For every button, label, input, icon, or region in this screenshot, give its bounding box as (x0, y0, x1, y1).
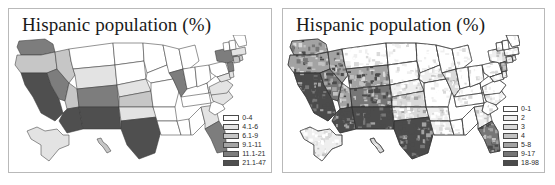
county-cell (413, 57, 416, 61)
county-cell (391, 72, 393, 75)
county-cell (333, 92, 338, 96)
county-cell (332, 87, 337, 91)
county-cell (389, 113, 392, 115)
county-cell (471, 115, 476, 119)
county-cell (364, 100, 367, 102)
county-cell (386, 92, 388, 96)
county-cell (428, 45, 431, 47)
county-cell (329, 134, 331, 138)
county-cell (301, 138, 304, 141)
county-cell (333, 127, 336, 130)
county-cell (303, 58, 308, 61)
county-cell (299, 98, 302, 100)
county-cell (492, 87, 496, 91)
county-cell (323, 104, 327, 107)
county-cell (428, 55, 431, 59)
county-cell (367, 123, 372, 127)
map-region-ar (153, 107, 177, 121)
county-cell (397, 147, 400, 150)
county-cell (317, 77, 319, 79)
county-cell (407, 71, 412, 74)
county-cell (401, 57, 406, 59)
county-cell (296, 118, 298, 121)
legend-row: 18-98 (503, 159, 539, 167)
county-cell (320, 59, 324, 61)
county-cell (439, 127, 443, 131)
legend-label: 0-4 (242, 114, 252, 122)
county-cell (486, 102, 490, 105)
county-cell (359, 50, 362, 53)
county-cell (465, 116, 469, 119)
county-cell (404, 68, 407, 69)
county-cell (297, 82, 302, 84)
county-cell (362, 95, 367, 97)
county-cell (346, 112, 348, 116)
map-region-tx (121, 117, 161, 159)
map-region-mi (179, 45, 199, 69)
county-cell (372, 101, 375, 103)
county-cell (304, 132, 308, 135)
county-cell (325, 102, 328, 104)
county-cell (420, 77, 422, 79)
county-cell (434, 137, 436, 140)
county-cell (465, 49, 468, 52)
county-cell (503, 66, 506, 70)
county-cell (449, 103, 451, 106)
county-cell (402, 49, 405, 51)
county-cell (413, 94, 416, 96)
county-cell (314, 86, 316, 88)
county-cell (401, 139, 405, 141)
county-cell (305, 103, 308, 105)
county-cell (387, 116, 391, 119)
county-cell (407, 107, 410, 110)
county-cell (319, 118, 322, 121)
county-cell (337, 150, 339, 152)
county-cell (371, 71, 373, 75)
county-cell (431, 145, 436, 148)
county-cell (400, 53, 402, 56)
county-cell (371, 109, 373, 112)
county-cell (354, 79, 356, 81)
county-cell (317, 148, 319, 150)
county-cell (411, 147, 416, 151)
county-cell (494, 83, 497, 86)
county-cell (368, 58, 371, 60)
legend-row: 4 (503, 132, 539, 140)
legend-row: 0-4 (223, 114, 266, 122)
county-cell (304, 113, 307, 117)
legend-label: 2 (521, 114, 525, 122)
county-cell (304, 84, 309, 86)
county-cell (335, 107, 339, 110)
county-cell (379, 128, 383, 132)
county-cell (410, 142, 414, 146)
county-cell (375, 74, 380, 77)
region-shape-ak (27, 127, 69, 161)
county-cell (330, 155, 332, 158)
county-cell (321, 120, 324, 123)
county-cell (433, 143, 435, 146)
map-region-de (229, 71, 234, 78)
county-cell (488, 146, 493, 149)
county-cell (395, 141, 397, 145)
county-cell (405, 159, 409, 163)
county-cell (509, 37, 511, 39)
county-cell (323, 91, 326, 93)
county-cell (431, 93, 434, 95)
county-cell (413, 45, 416, 47)
county-cell (323, 114, 325, 117)
county-cell (410, 108, 413, 112)
county-cell (491, 114, 494, 116)
county-cell (375, 61, 380, 64)
county-cell (332, 53, 335, 56)
county-cell (359, 110, 364, 113)
county-cell (459, 99, 462, 103)
legend-swatch (503, 124, 518, 130)
county-cell (354, 54, 358, 58)
county-cell (483, 128, 485, 132)
county-cell (500, 139, 503, 143)
county-cell (369, 46, 372, 48)
county-cell (417, 114, 419, 117)
county-cell (335, 150, 338, 152)
legend-row: 11.1-21 (223, 150, 266, 158)
county-cell (487, 115, 490, 117)
